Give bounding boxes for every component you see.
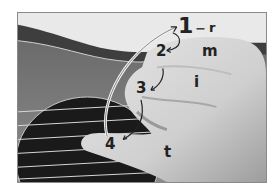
step-2-label: 2 [156,44,166,59]
guitar-hand-photo: 1 r 2 m 3 i 4 t [17,12,267,183]
finger-label-thumb: t [164,145,171,160]
step-3-label: 3 [136,81,146,96]
finger-label-ring: r [209,21,215,34]
finger-label-index: i [194,75,199,90]
finger-label-middle: m [202,44,218,59]
step-4-label: 4 [105,137,115,152]
photo-illustration [18,13,266,182]
step-1-label: 1 [178,15,193,37]
